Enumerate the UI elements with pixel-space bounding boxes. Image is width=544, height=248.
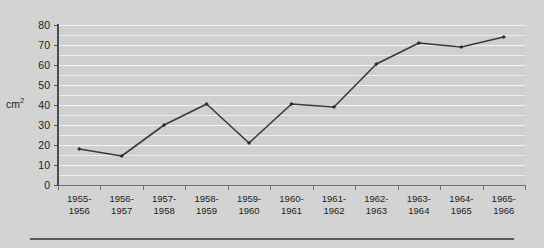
x-axis-label-line1: 1960- [279, 193, 303, 204]
x-axis-label: 1956-1957 [100, 193, 142, 216]
data-point-marker [77, 147, 81, 151]
x-axis-tick-mark [228, 185, 229, 190]
y-axis-tick-label: 50 [2, 80, 50, 90]
x-axis-tick-mark [313, 185, 314, 190]
y-axis-tick-label: 80 [2, 20, 50, 30]
y-axis-title-text: cm [6, 98, 20, 110]
x-axis-tick-mark [355, 185, 356, 190]
y-axis-tick-label: 30 [2, 120, 50, 130]
x-axis-label: 1965-1966 [483, 193, 525, 216]
x-axis-label-line1: 1963- [407, 193, 431, 204]
series-polyline [79, 37, 504, 156]
y-axis-tick-mark [54, 85, 58, 86]
x-axis-label: 1963-1964 [398, 193, 440, 216]
y-axis-tick-label: 70 [2, 40, 50, 50]
y-axis-tick-label: 20 [2, 140, 50, 150]
data-point-marker [459, 45, 463, 49]
y-axis-tick-mark [54, 65, 58, 66]
x-axis-label: 1961-1962 [313, 193, 355, 216]
y-axis-tick-mark [54, 145, 58, 146]
x-axis-label-line1: 1958- [194, 193, 218, 204]
x-axis-label-line1: 1956- [110, 193, 134, 204]
x-axis-label: 1957-1958 [143, 193, 185, 216]
x-axis-label: 1962-1963 [355, 193, 397, 216]
x-axis-label-line1: 1961- [322, 193, 346, 204]
plot-area [58, 25, 525, 185]
x-axis-tick-mark [100, 185, 101, 190]
data-series-line [58, 25, 525, 185]
x-axis-label-line1: 1955- [67, 193, 91, 204]
x-axis-label: 1964-1965 [440, 193, 482, 216]
y-axis-tick-label: 10 [2, 160, 50, 170]
x-axis-label-line2: 1966 [483, 205, 525, 217]
x-axis-label-line1: 1957- [152, 193, 176, 204]
x-axis-label-line2: 1956 [58, 205, 100, 217]
x-axis-label-line2: 1957 [100, 205, 142, 217]
x-axis-tick-mark [185, 185, 186, 190]
x-axis-tick-mark [483, 185, 484, 190]
x-axis-tick-mark [270, 185, 271, 190]
x-axis-label-line1: 1962- [364, 193, 388, 204]
y-axis-tick-mark [54, 45, 58, 46]
x-axis-tick-mark [440, 185, 441, 190]
x-axis-label-line1: 1964- [449, 193, 473, 204]
x-axis-tick-mark [58, 185, 59, 190]
data-point-marker [502, 35, 506, 39]
x-axis-label-line1: 1965- [492, 193, 516, 204]
y-axis-title-superscript: 2 [20, 96, 24, 105]
x-axis-label-line2: 1965 [440, 205, 482, 217]
x-axis-label-line2: 1961 [270, 205, 312, 217]
y-axis-tick-mark [54, 125, 58, 126]
x-axis-line [57, 185, 526, 186]
x-axis-label-line1: 1959- [237, 193, 261, 204]
y-axis-tick-mark [54, 25, 58, 26]
x-axis-label-line2: 1959 [185, 205, 227, 217]
x-axis-label-line2: 1964 [398, 205, 440, 217]
x-axis-label-line2: 1958 [143, 205, 185, 217]
x-axis-label: 1959-1960 [228, 193, 270, 216]
x-axis-tick-mark [143, 185, 144, 190]
bottom-divider [30, 238, 514, 240]
x-axis-tick-mark [398, 185, 399, 190]
y-axis-tick-mark [54, 165, 58, 166]
x-axis-label-line2: 1962 [313, 205, 355, 217]
x-axis-label: 1960-1961 [270, 193, 312, 216]
y-axis-title: cm2 [6, 96, 24, 110]
y-axis-tick-label: 60 [2, 60, 50, 70]
line-chart-figure: 01020304050607080 1955-19561956-19571957… [0, 0, 544, 248]
x-axis-label: 1958-1959 [185, 193, 227, 216]
x-axis-tick-mark [525, 185, 526, 190]
y-axis-tick-label: 0 [2, 180, 50, 190]
x-axis-label: 1955-1956 [58, 193, 100, 216]
x-axis-label-line2: 1963 [355, 205, 397, 217]
y-axis-tick-mark [54, 105, 58, 106]
x-axis-label-line2: 1960 [228, 205, 270, 217]
